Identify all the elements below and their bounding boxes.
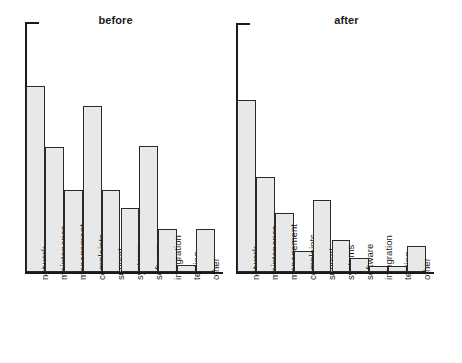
category-label: integration [172,235,183,280]
category-label: other [421,258,432,280]
before-panel: before networkmaintenancemanagementcompl… [0,0,231,363]
bar [26,86,45,272]
category-label: other [210,258,221,280]
y-axis-top-tick [236,23,250,25]
after-plot-area: networkmaintenancemanagementcomplaintssu… [231,0,462,363]
y-axis-top-tick [25,22,39,24]
before-plot-area: networkmaintenancemanagementcomplaintssu… [0,0,231,363]
after-panel: after networkmaintenancemanagementcompla… [231,0,462,363]
category-label: software [364,244,375,280]
category-label: integration [383,235,394,280]
pareto-chart-figure: before networkmaintenancemanagementcompl… [0,0,462,363]
